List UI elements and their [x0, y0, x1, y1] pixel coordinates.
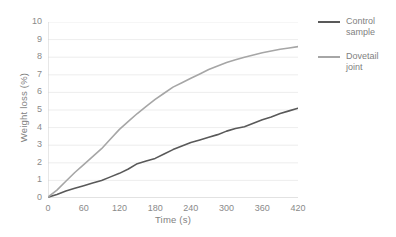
y-tick-label: 8 [22, 51, 42, 61]
legend-item[interactable]: Control sample [318, 16, 392, 38]
legend-line-swatch-icon [318, 21, 340, 23]
y-tick-label: 0 [22, 192, 42, 202]
x-tick-label: 120 [106, 203, 132, 213]
x-tick-label: 60 [71, 203, 97, 213]
y-tick-label: 9 [22, 34, 42, 44]
y-tick-label: 6 [22, 86, 42, 96]
x-tick-label: 360 [249, 203, 275, 213]
x-tick-label: 240 [178, 203, 204, 213]
y-tick-label: 7 [22, 69, 42, 79]
legend-item-label: Control sample [346, 16, 390, 38]
y-tick-label: 5 [22, 104, 42, 114]
y-tick-label: 4 [22, 122, 42, 132]
y-tick-label: 2 [22, 157, 42, 167]
legend-item-label: Dovetail joint [346, 51, 390, 73]
plot-area [48, 22, 298, 198]
series-line [48, 47, 298, 197]
y-tick-label: 10 [22, 16, 42, 26]
weight-loss-line-chart: Weight loss (%) Time (s) 012345678910 06… [0, 0, 396, 237]
legend-line-swatch-icon [318, 56, 340, 58]
chart-legend: Control sampleDovetail joint [318, 16, 392, 86]
y-tick-label: 3 [22, 139, 42, 149]
series-line [48, 108, 298, 197]
y-tick-label: 1 [22, 174, 42, 184]
x-tick-label: 300 [214, 203, 240, 213]
legend-item[interactable]: Dovetail joint [318, 51, 392, 73]
x-tick-label: 180 [142, 203, 168, 213]
grid-lines [48, 22, 298, 198]
data-series-layer [48, 47, 298, 197]
x-tick-label: 420 [285, 203, 311, 213]
x-tick-label: 0 [35, 203, 61, 213]
x-axis-title: Time (s) [118, 214, 228, 225]
